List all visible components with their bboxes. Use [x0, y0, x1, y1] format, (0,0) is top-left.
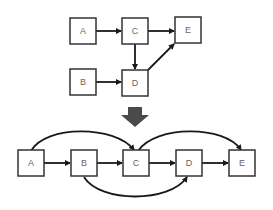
top-node-c: C	[122, 18, 148, 44]
node-label: C	[133, 158, 140, 168]
bottom-graph: A B C D E	[18, 131, 255, 196]
bottom-node-d: D	[176, 150, 202, 176]
bottom-node-a: A	[18, 150, 44, 176]
top-node-d: D	[122, 70, 148, 96]
node-label: D	[132, 78, 139, 88]
bottom-node-b: B	[71, 150, 97, 176]
diagram-canvas: A C E B D A	[0, 0, 273, 210]
node-label: B	[80, 77, 86, 87]
top-node-e: E	[175, 17, 201, 43]
node-label: D	[186, 158, 193, 168]
top-node-b: B	[70, 69, 96, 95]
down-arrow-icon	[121, 107, 149, 127]
node-label: A	[80, 26, 86, 36]
top-edge-d-e	[148, 44, 174, 70]
top-node-a: A	[70, 18, 96, 44]
bottom-arc-b-d	[84, 177, 187, 197]
node-label: C	[132, 26, 139, 36]
bottom-arc-a-c	[31, 131, 134, 151]
node-label: A	[28, 158, 34, 168]
node-label: E	[185, 25, 191, 35]
bottom-arc-c-e	[138, 131, 241, 151]
top-graph: A C E B D	[70, 17, 201, 96]
node-label: E	[239, 158, 245, 168]
bottom-node-e: E	[229, 150, 255, 176]
node-label: B	[81, 158, 87, 168]
bottom-node-c: C	[123, 150, 149, 176]
